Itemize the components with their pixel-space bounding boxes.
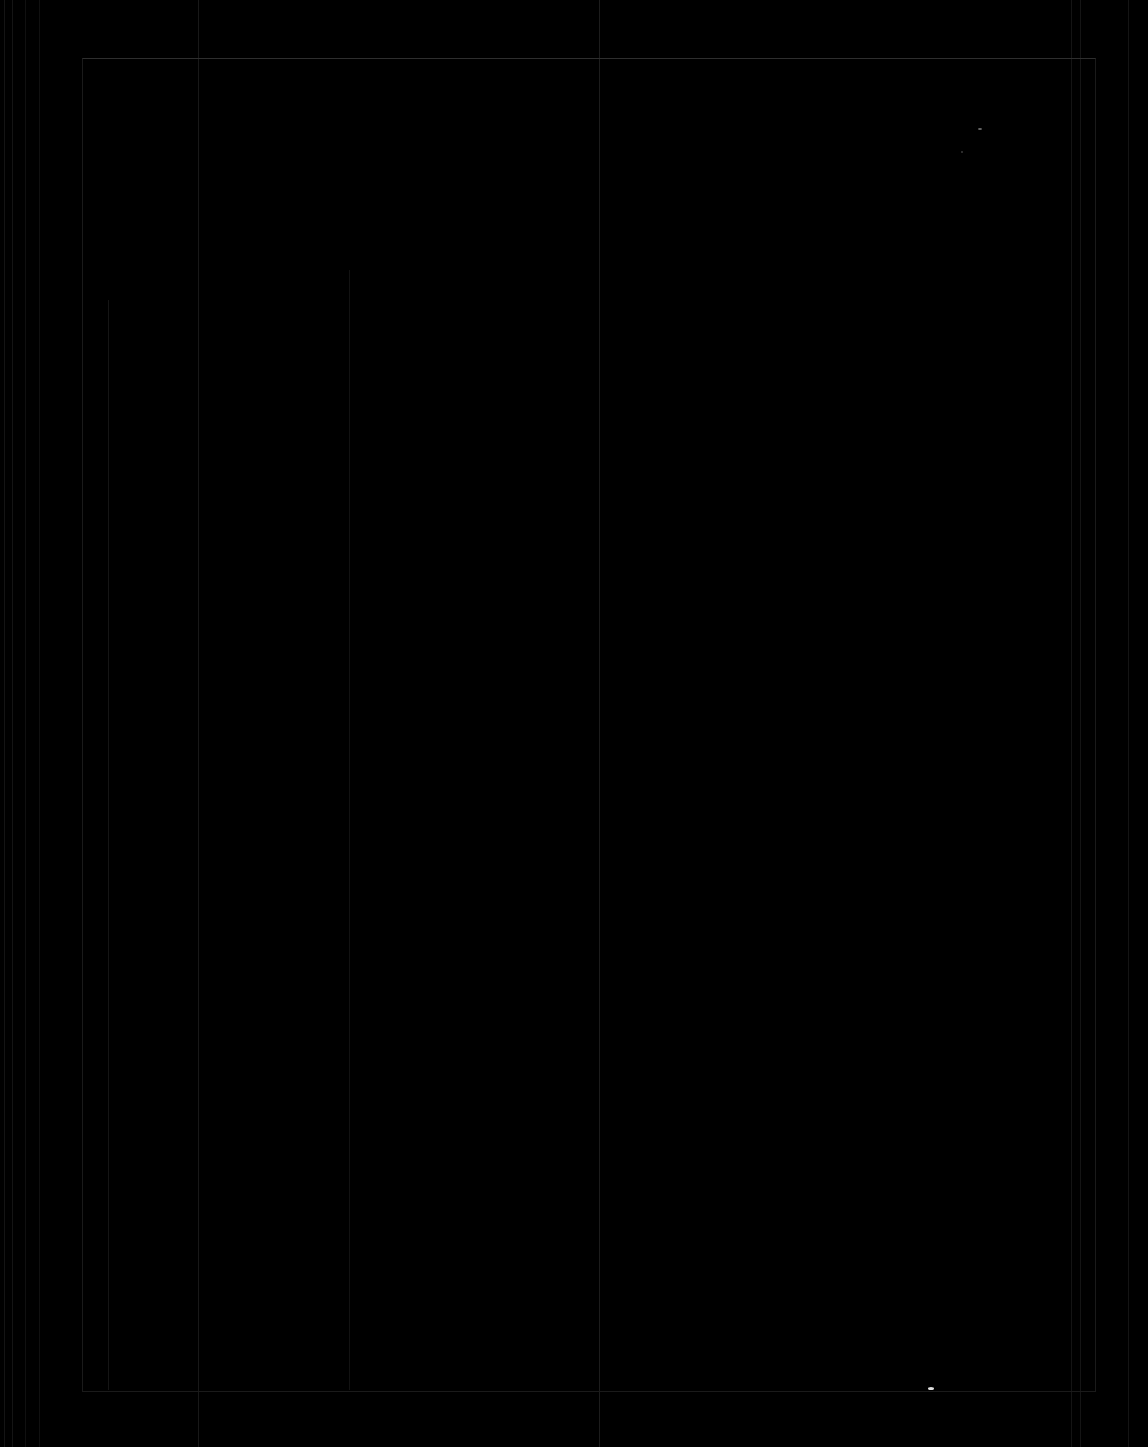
vertical-line xyxy=(25,0,26,1447)
inner-divider-line xyxy=(349,270,350,1390)
noise-speck xyxy=(978,128,982,130)
noise-speck xyxy=(928,1387,934,1390)
vertical-line xyxy=(39,0,40,1447)
vertical-line xyxy=(4,0,5,1447)
inner-divider-line xyxy=(108,300,109,1390)
vertical-line xyxy=(12,0,13,1447)
vertical-line xyxy=(1128,0,1129,1447)
noise-speck xyxy=(961,151,963,153)
window-frame xyxy=(82,58,1096,1392)
